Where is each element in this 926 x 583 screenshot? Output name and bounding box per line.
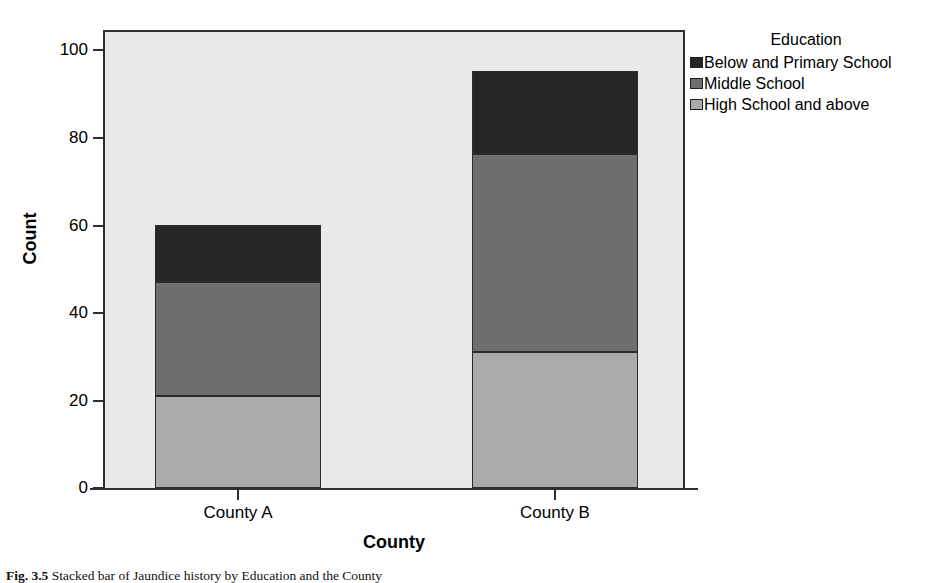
bar-segment-county-b-middle-school[interactable] xyxy=(472,154,638,352)
bar-segment-county-a-middle-school[interactable] xyxy=(155,282,321,396)
x-axis-title: County xyxy=(103,532,685,553)
figure-caption-label: Fig. 3.5 xyxy=(6,568,48,583)
bar-segment-county-b-below-and-primary-school[interactable] xyxy=(472,71,638,154)
y-tick-100 xyxy=(93,49,104,51)
legend-item-middle-school[interactable]: Middle School xyxy=(690,73,926,94)
y-tick-label-100: 100 xyxy=(28,41,88,58)
legend-swatch-high-school-and-above xyxy=(690,99,703,110)
legend-label-middle-school: Middle School xyxy=(704,75,805,93)
y-tick-20 xyxy=(93,400,104,402)
x-tick-county-b xyxy=(554,490,556,500)
legend-swatch-middle-school xyxy=(690,78,703,89)
y-tick-label-20: 20 xyxy=(28,392,88,409)
bar-stack-county-a xyxy=(155,49,321,488)
figure-caption: Fig. 3.5 Stacked bar of Jaundice history… xyxy=(6,568,906,583)
legend: Education Below and Primary School Middl… xyxy=(690,31,926,115)
bar-segment-county-a-below-and-primary-school[interactable] xyxy=(155,225,321,282)
y-tick-label-80: 80 xyxy=(28,129,88,146)
x-axis-line xyxy=(90,488,698,490)
y-tick-60 xyxy=(93,225,104,227)
x-tick-county-a xyxy=(237,490,239,500)
bar-segment-county-b-high-school-and-above[interactable] xyxy=(472,352,638,488)
y-axis-line xyxy=(103,30,105,490)
figure-caption-text: Stacked bar of Jaundice history by Educa… xyxy=(52,568,382,583)
x-tick-label-county-a: County A xyxy=(148,503,328,523)
legend-label-high-school-and-above: High School and above xyxy=(704,96,869,114)
legend-title: Education xyxy=(696,31,916,49)
bar-stack-county-b xyxy=(472,49,638,488)
legend-item-high-school-and-above[interactable]: High School and above xyxy=(690,94,926,115)
legend-label-below-and-primary-school: Below and Primary School xyxy=(704,54,892,72)
figure-container: 100 80 60 40 20 0 Count County A County … xyxy=(0,0,926,583)
legend-swatch-below-and-primary-school xyxy=(690,57,703,68)
y-tick-label-0: 0 xyxy=(28,479,88,496)
legend-item-below-and-primary-school[interactable]: Below and Primary School xyxy=(690,52,926,73)
bar-segment-county-a-high-school-and-above[interactable] xyxy=(155,396,321,488)
y-tick-80 xyxy=(93,137,104,139)
y-axis-title: Count xyxy=(20,191,41,287)
y-tick-40 xyxy=(93,312,104,314)
x-tick-label-county-b: County B xyxy=(465,503,645,523)
y-tick-label-40: 40 xyxy=(28,304,88,321)
